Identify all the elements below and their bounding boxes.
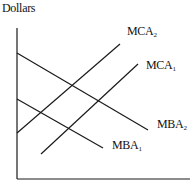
mca1-label-base: MCA [146,58,172,72]
mba1-label-sub: 1 [138,145,141,153]
mba1-label: MBA1 [112,139,142,153]
mba2-label-sub: 2 [183,124,186,132]
mca2-label-base: MCA [127,24,153,38]
mba1-label-base: MBA [112,138,138,152]
mba1-line [17,99,103,148]
chart-canvas [0,0,190,184]
mca2-label-sub: 2 [153,31,156,39]
mba2-label: MBA2 [157,118,187,132]
mca2-line [17,44,120,133]
mca2-label: MCA2 [127,25,157,39]
y-axis-label: Dollars [2,2,35,14]
mba2-label-base: MBA [157,117,183,131]
mca1-label: MCA1 [146,59,176,73]
mca1-label-sub: 1 [172,65,175,73]
mba2-line [17,53,148,130]
